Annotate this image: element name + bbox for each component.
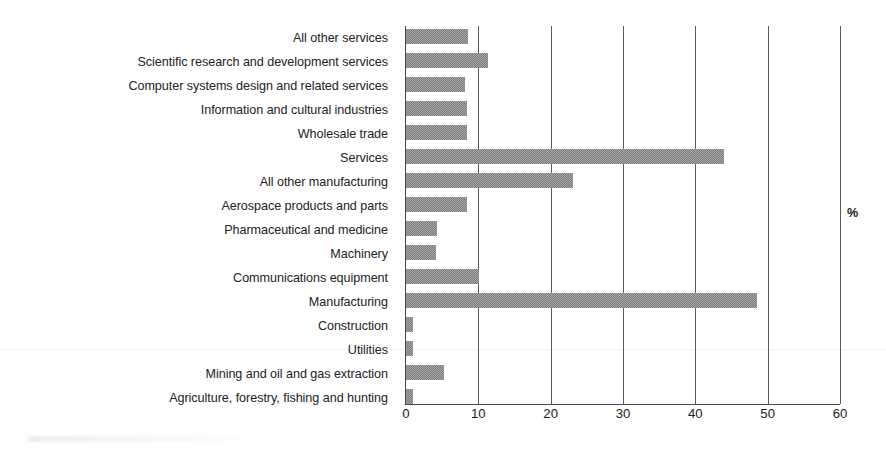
x-tick-label: 20 xyxy=(543,406,558,421)
bar xyxy=(406,77,465,92)
category-label: Computer systems design and related serv… xyxy=(0,74,397,98)
bar xyxy=(406,221,437,236)
x-tick-label: 50 xyxy=(760,406,775,421)
bar-chart: All other servicesScientific research an… xyxy=(0,0,886,451)
bar xyxy=(406,317,413,332)
bar-row xyxy=(406,146,840,170)
bar-row xyxy=(406,362,840,386)
x-tick-label: 0 xyxy=(402,406,409,421)
bar-row xyxy=(406,122,840,146)
bar-series xyxy=(406,26,840,404)
bar xyxy=(406,149,724,164)
category-label: Pharmaceutical and medicine xyxy=(0,218,397,242)
category-label: Agriculture, forestry, fishing and hunti… xyxy=(0,386,397,410)
category-label: Machinery xyxy=(0,242,397,266)
bar-row xyxy=(406,26,840,50)
bar xyxy=(406,101,467,116)
bar xyxy=(406,365,444,380)
axis-unit-label: % xyxy=(847,206,858,220)
category-label: Scientific research and development serv… xyxy=(0,50,397,74)
category-label: Aerospace products and parts xyxy=(0,194,397,218)
bar-row xyxy=(406,242,840,266)
x-tick-label: 40 xyxy=(688,406,703,421)
bar xyxy=(406,293,757,308)
bar-row xyxy=(406,338,840,362)
x-tick-label: 30 xyxy=(616,406,631,421)
bar-row xyxy=(406,50,840,74)
category-label: Mining and oil and gas extraction xyxy=(0,362,397,386)
bar xyxy=(406,197,467,212)
bar xyxy=(406,125,467,140)
bar xyxy=(406,29,468,44)
category-label: Communications equipment xyxy=(0,266,397,290)
category-label: All other manufacturing xyxy=(0,170,397,194)
bar-row xyxy=(406,98,840,122)
gridline xyxy=(840,26,841,404)
category-label: Wholesale trade xyxy=(0,122,397,146)
category-label: Services xyxy=(0,146,397,170)
category-label: Construction xyxy=(0,314,397,338)
x-tick-label: 10 xyxy=(471,406,486,421)
bar xyxy=(406,269,479,284)
plot-area xyxy=(406,26,840,404)
category-label: Information and cultural industries xyxy=(0,98,397,122)
bar-row xyxy=(406,218,840,242)
bar-row xyxy=(406,170,840,194)
bar-row xyxy=(406,290,840,314)
scan-artifact-smudge xyxy=(28,436,258,442)
bar-row xyxy=(406,194,840,218)
bar-row xyxy=(406,314,840,338)
bar xyxy=(406,53,488,68)
scan-artifact-line xyxy=(0,349,886,350)
bar xyxy=(406,245,436,260)
bar xyxy=(406,173,573,188)
x-tick-label: 60 xyxy=(833,406,848,421)
x-axis-tick-labels: 0102030405060 xyxy=(406,406,840,430)
bar-row xyxy=(406,74,840,98)
category-axis-labels: All other servicesScientific research an… xyxy=(0,26,397,410)
category-label: All other services xyxy=(0,26,397,50)
bar-row xyxy=(406,266,840,290)
category-label: Manufacturing xyxy=(0,290,397,314)
bar xyxy=(406,389,413,404)
category-label: Utilities xyxy=(0,338,397,362)
